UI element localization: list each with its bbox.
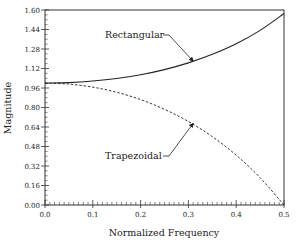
- annotation-arrow: [163, 123, 193, 156]
- annotations: RectangularTrapezoidal: [105, 29, 193, 161]
- annotation-rectangular: Rectangular: [105, 29, 165, 40]
- y-tick-label: 0.96: [24, 85, 40, 93]
- series-line-rectangular: [45, 14, 284, 84]
- y-tick-label: 1.28: [24, 46, 40, 54]
- x-tick-label: 0.3: [183, 211, 194, 219]
- y-tick-label: 1.60: [24, 7, 40, 15]
- y-tick-label: 1.44: [24, 26, 40, 34]
- x-tick-label: 0.5: [278, 211, 289, 219]
- x-axis-label: Normalized Frequency: [109, 227, 220, 238]
- series-line-trapezoidal: [45, 83, 284, 205]
- x-tick-label: 0.2: [135, 211, 146, 219]
- annotation-trapezoidal: Trapezoidal: [105, 150, 162, 161]
- x-tick-label: 0.0: [39, 211, 50, 219]
- y-tick-label: 0.64: [24, 124, 40, 132]
- magnitude-chart: 0.000.160.320.480.640.800.961.121.281.44…: [0, 0, 296, 241]
- y-axis-label: Magnitude: [2, 81, 13, 134]
- annotation-arrow: [163, 35, 193, 61]
- y-tick-label: 0.48: [24, 143, 40, 151]
- y-tick-label: 1.12: [24, 65, 40, 73]
- plot-frame: [45, 10, 284, 205]
- series-group: [45, 14, 284, 205]
- y-tick-label: 0.16: [24, 182, 40, 190]
- x-tick-label: 0.4: [231, 211, 243, 219]
- y-tick-label: 0.32: [24, 163, 40, 171]
- x-tick-label: 0.1: [87, 211, 98, 219]
- y-tick-label: 0.80: [24, 104, 40, 112]
- y-tick-label: 0.00: [24, 202, 40, 210]
